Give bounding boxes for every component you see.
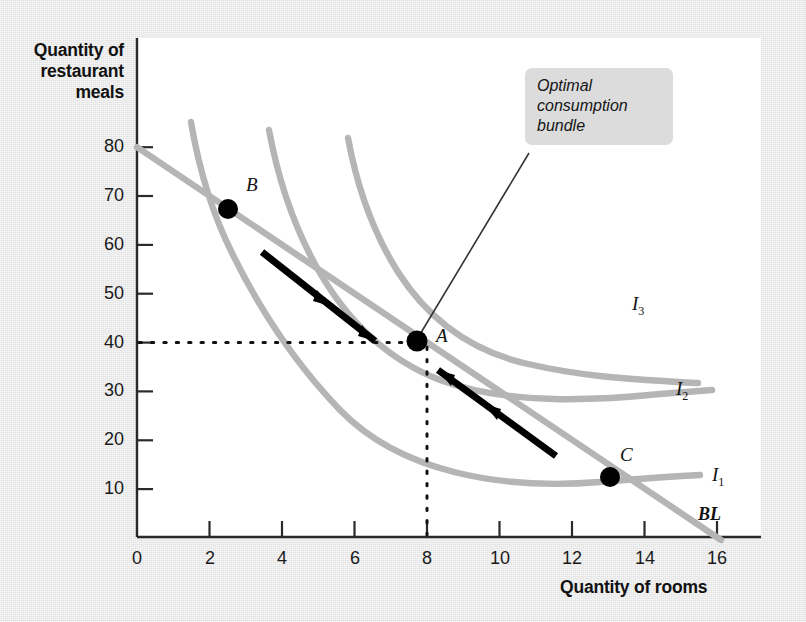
curve-label-bl: BL	[698, 504, 721, 525]
x-tick-label-0: 0	[117, 548, 157, 569]
curve-i1	[191, 122, 700, 484]
curve-label-i2-sub: 2	[682, 389, 688, 403]
y-axis-title-line-1: Quantity of	[0, 40, 124, 61]
point-marker-a[interactable]	[407, 331, 428, 352]
point-label-a: A	[436, 325, 448, 347]
y-axis-title: Quantity of restaurant meals	[0, 40, 124, 103]
x-tick-label-10: 10	[480, 548, 520, 569]
curve-i2	[269, 130, 712, 399]
curve-i3	[348, 138, 698, 383]
x-tick-label-4: 4	[262, 548, 302, 569]
point-marker-c[interactable]	[600, 467, 620, 487]
curve-label-i3: I3	[632, 293, 644, 319]
y-tick-label-50: 50	[76, 283, 124, 304]
y-tick-label-40: 40	[76, 332, 124, 353]
y-tick-label-10: 10	[76, 478, 124, 499]
y-tick-marks	[137, 147, 153, 489]
callout-line-2: consumption	[537, 96, 663, 116]
y-axis-title-line-2: restaurant	[0, 61, 124, 82]
point-label-c: C	[620, 444, 633, 466]
y-tick-label-20: 20	[76, 429, 124, 450]
x-tick-label-2: 2	[190, 548, 230, 569]
y-tick-label-70: 70	[76, 185, 124, 206]
y-axis-title-line-3: meals	[0, 82, 124, 103]
callout-leader-line	[419, 153, 529, 336]
x-tick-label-8: 8	[407, 548, 447, 569]
x-tick-label-16: 16	[697, 548, 737, 569]
curve-label-i1-sub: 1	[718, 475, 724, 489]
y-tick-label-30: 30	[76, 380, 124, 401]
figure-container: Quantity of restaurant meals Quantity of…	[0, 0, 806, 622]
x-tick-marks	[210, 521, 718, 537]
point-marker-b[interactable]	[218, 199, 238, 219]
x-tick-label-14: 14	[625, 548, 665, 569]
curve-label-i2: I2	[676, 378, 688, 404]
y-tick-label-80: 80	[76, 136, 124, 157]
curve-label-i1: I1	[712, 464, 724, 490]
callout-line-3: bundle	[537, 116, 663, 136]
y-tick-label-60: 60	[76, 234, 124, 255]
arrow-c-to-a	[438, 370, 556, 456]
point-label-b: B	[246, 174, 258, 196]
curve-label-i3-sub: 3	[638, 304, 644, 318]
x-tick-label-12: 12	[552, 548, 592, 569]
x-tick-label-6: 6	[335, 548, 375, 569]
x-axis-title: Quantity of rooms	[560, 577, 707, 598]
callout-line-1: Optimal	[537, 76, 663, 96]
optimal-bundle-callout: Optimal consumption bundle	[525, 68, 673, 145]
